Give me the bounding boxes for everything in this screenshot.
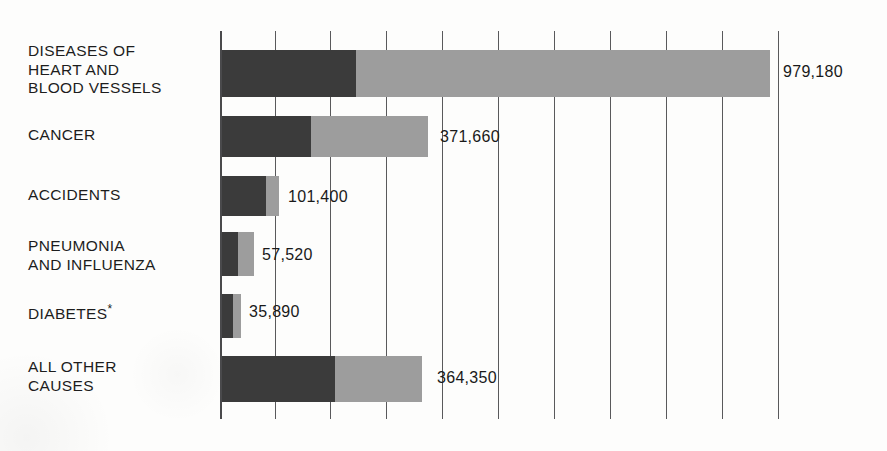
value-label-accidents: 101,400 [288,188,348,206]
category-label-other-line-2: CAUSES [28,377,208,396]
category-label-cancer-line-1: CANCER [28,126,208,145]
bar-other-light-segment [335,356,422,402]
category-label-diabetes-text: DIABETES [28,305,107,322]
category-label-diabetes-line-1: DIABETES* [28,300,208,324]
bar-cancer-light-segment [311,116,428,157]
value-label-other: 364,350 [437,369,497,387]
bar-diabetes-light-segment [233,294,241,338]
bar-accidents [222,176,279,216]
bar-chart: DISEASES OF HEART AND BLOOD VESSELS 979,… [0,0,887,451]
value-label-heart: 979,180 [783,63,843,81]
category-label-other-line-1: ALL OTHER [28,358,208,377]
value-label-diabetes: 35,890 [249,303,300,321]
bar-diabetes-dark-segment [222,294,233,338]
bar-cancer-dark-segment [222,116,311,157]
value-label-cancer: 371,660 [440,128,500,146]
category-label-heart-line-2: HEART AND [28,61,208,80]
category-label-accidents-line-1: ACCIDENTS [28,186,208,205]
bar-pneumonia-light-segment [238,232,254,276]
category-label-accidents: ACCIDENTS [28,186,208,205]
bar-other-dark-segment [222,356,335,402]
bar-accidents-dark-segment [222,176,266,216]
plot-area: DISEASES OF HEART AND BLOOD VESSELS 979,… [0,0,887,451]
category-label-heart: DISEASES OF HEART AND BLOOD VESSELS [28,42,208,98]
bar-heart [222,50,770,97]
category-label-diabetes: DIABETES* [28,300,208,324]
bar-pneumonia [222,232,254,276]
gridline-10 [778,31,779,419]
category-label-other: ALL OTHER CAUSES [28,358,208,395]
bar-heart-dark-segment [222,50,356,97]
bar-heart-light-segment [356,50,770,97]
bar-diabetes [222,294,241,338]
category-label-heart-line-3: BLOOD VESSELS [28,79,208,98]
category-label-pneumonia: PNEUMONIA AND INFLUENZA [28,237,208,274]
bar-other [222,356,422,402]
category-label-pneumonia-line-2: AND INFLUENZA [28,256,208,275]
category-label-heart-line-1: DISEASES OF [28,42,208,61]
bar-accidents-light-segment [266,176,279,216]
value-label-pneumonia: 57,520 [262,246,313,264]
category-label-cancer: CANCER [28,126,208,145]
footnote-asterisk-icon: * [107,302,112,316]
bar-cancer [222,116,428,157]
bar-pneumonia-dark-segment [222,232,238,276]
category-label-pneumonia-line-1: PNEUMONIA [28,237,208,256]
